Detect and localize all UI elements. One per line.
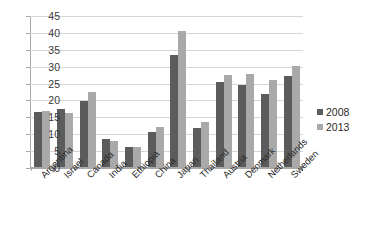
y-axis-tick-label: 25 [36, 79, 60, 90]
y-axis-tick-label: 20 [36, 95, 60, 106]
bar-group [122, 16, 145, 167]
bar-group [190, 16, 213, 167]
legend: 2008 2013 [317, 104, 349, 134]
y-axis-tick-label: 40 [36, 28, 60, 39]
legend-label: 2008 [326, 106, 349, 118]
bar-2008 [80, 101, 88, 167]
y-axis-tick-mark [26, 67, 30, 68]
bar-chart: 051015202530354045 ArgentinaIsraelCanada… [0, 0, 365, 229]
bar-group [212, 16, 235, 167]
legend-item-2008: 2008 [317, 104, 349, 119]
y-axis-tick-label: 45 [36, 11, 60, 22]
y-axis-tick-mark [26, 16, 30, 17]
bar-group [99, 16, 122, 167]
bar-2013 [246, 74, 254, 167]
legend-swatch-icon [317, 124, 323, 130]
legend-item-2013: 2013 [317, 119, 349, 134]
y-axis-tick-label: 10 [36, 129, 60, 140]
bar-group [76, 16, 99, 167]
y-axis-tick-mark [26, 168, 30, 169]
y-axis-tick-label: 35 [36, 45, 60, 56]
y-axis-tick-mark [26, 33, 30, 34]
bar-groups [31, 16, 303, 167]
bar-2008 [170, 55, 178, 167]
y-axis-tick-mark [26, 100, 30, 101]
y-axis-tick-mark [26, 50, 30, 51]
legend-label: 2013 [326, 121, 349, 133]
y-axis-tick-label: 15 [36, 112, 60, 123]
bar-group [235, 16, 258, 167]
y-axis-tick-mark [26, 117, 30, 118]
bar-group [144, 16, 167, 167]
bar-2013 [88, 92, 96, 167]
plot-area [30, 16, 303, 168]
bar-group [167, 16, 190, 167]
y-axis-tick-mark [26, 151, 30, 152]
bar-2013 [178, 31, 186, 167]
y-axis-tick-mark [26, 84, 30, 85]
y-axis-tick-label: 30 [36, 62, 60, 73]
x-axis-labels: ArgentinaIsraelCanadaIndiaEthiopiaChinaJ… [31, 170, 303, 228]
y-axis-tick-mark [26, 134, 30, 135]
legend-swatch-icon [317, 109, 323, 115]
